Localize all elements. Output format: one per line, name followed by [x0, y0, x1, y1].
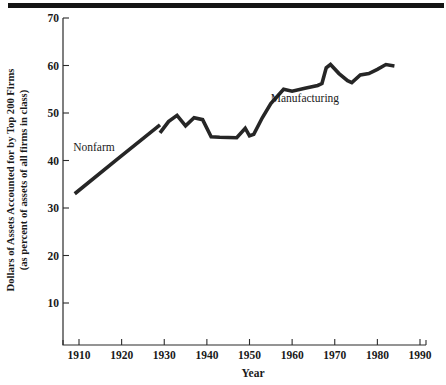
series-annotations: NonfarmManufacturing: [73, 92, 339, 153]
y-axis-ticks: 10203040506070: [48, 12, 70, 309]
series-label-nonfarm: Nonfarm: [73, 141, 115, 153]
x-tick-label: 1990: [409, 349, 432, 361]
y-tick-label: 30: [48, 202, 60, 214]
y-tick-label: 40: [48, 155, 60, 167]
x-tick-label: 1940: [195, 349, 218, 361]
y-tick-label: 70: [48, 12, 60, 24]
y-tick-label: 20: [48, 250, 60, 262]
x-tick-label: 1950: [238, 349, 261, 361]
chart-axes: [63, 18, 426, 345]
x-tick-label: 1980: [366, 349, 389, 361]
x-tick-label: 1960: [281, 349, 304, 361]
x-axis-ticks: 191019201930194019501960197019801990: [68, 339, 432, 361]
line-chart: 10203040506070 1910192019301940195019601…: [0, 0, 446, 385]
y-axis-title-line2: (as percent of assets of all firms in cl…: [18, 89, 30, 270]
y-tick-label: 50: [48, 107, 60, 119]
series-line-nonfarm: [75, 125, 160, 194]
x-tick-label: 1970: [323, 349, 346, 361]
chart-figure: 10203040506070 1910192019301940195019601…: [0, 0, 446, 385]
series-label-manufacturing: Manufacturing: [271, 92, 340, 105]
x-axis-title: Year: [242, 367, 265, 379]
x-tick-label: 1930: [153, 349, 176, 361]
x-tick-label: 1920: [110, 349, 133, 361]
y-tick-label: 10: [48, 297, 60, 309]
y-axis-title-line1: Dollars of Assets Accounted for by Top 2…: [5, 69, 16, 292]
y-tick-label: 60: [48, 60, 60, 72]
x-tick-label: 1910: [68, 349, 91, 361]
axis-frame: [63, 18, 426, 345]
data-series-group: [75, 65, 395, 194]
